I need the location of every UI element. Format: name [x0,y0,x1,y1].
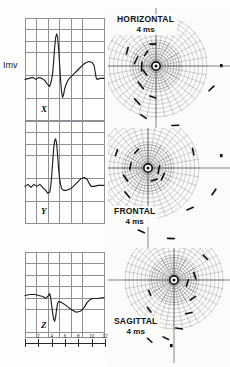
vector-loops-column: HORIZONTAL 4 ms FRONTAL 4 ms SAGITTAL 4 … [108,0,230,367]
time-axis-tick-label: 12 [102,334,107,339]
lead-label-x: X [41,104,47,114]
lead-x-waveform [25,18,104,120]
time-axis-tick [92,339,93,347]
time-axis: 24681012 [25,338,105,350]
time-axis-tick [105,339,106,347]
plane-name-sagittal: SAGITTAL [114,317,157,327]
time-axis-tick [38,339,39,347]
time-axis-tick [78,339,79,347]
vector-loop-frontal: FRONTAL 4 ms [108,128,230,248]
plane-label-horizontal: HORIZONTAL 4 ms [114,14,177,35]
lead-z-waveform [25,252,104,337]
lead-label-y: Y [41,206,47,216]
vector-loop-sagittal: SAGITTAL 4 ms [108,248,230,363]
polar-grid-frontal [108,128,230,248]
lead-y-waveform [25,121,104,223]
vectorcardiogram-figure: Imv X Y Z 24681012 [0,0,230,367]
plane-time-horizontal: 4 ms [117,25,174,34]
lead-label-z: Z [41,320,47,330]
lead-panel-x [25,18,105,121]
time-axis-tick [65,339,66,347]
plane-label-sagittal: SAGITTAL 4 ms [111,316,160,337]
time-axis-tick [25,339,26,347]
time-axis-tick-label: 8 [77,334,80,339]
time-axis-tick-label: 2 [37,334,40,339]
time-axis-tick [52,339,53,347]
plane-label-frontal: FRONTAL 4 ms [111,206,158,227]
lead-panel-z [25,252,105,338]
polar-grid-sagittal [108,248,230,363]
calibration-label: Imv [3,60,18,70]
vector-loop-horizontal: HORIZONTAL 4 ms [108,8,230,128]
time-axis-tick-label: 6 [64,334,67,339]
time-axis-tick-label: 4 [50,334,53,339]
lead-panel-y [25,121,105,224]
time-axis-tick-label: 10 [89,334,94,339]
plane-name-frontal: FRONTAL [114,207,155,217]
scalar-leads-column: Imv X Y Z 24681012 [0,0,108,367]
plane-name-horizontal: HORIZONTAL [117,15,174,25]
plane-time-frontal: 4 ms [114,217,155,226]
plane-time-sagittal: 4 ms [114,327,157,336]
